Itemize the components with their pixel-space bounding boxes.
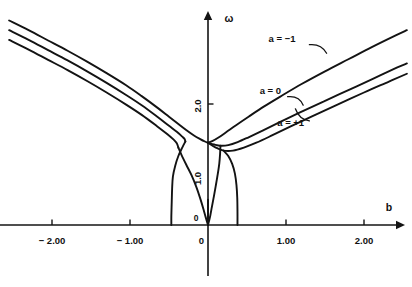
- curve-annotation-label: a = 0: [260, 85, 281, 96]
- lower-branches-group: [171, 142, 237, 225]
- annotation-leader-line: [309, 45, 326, 54]
- chart-figure: − 2.00− 1.0001.002.00 1.02.0 a = −1a = 0…: [0, 0, 412, 287]
- x-axis-tick-labels: − 2.00− 1.0001.002.00: [39, 235, 374, 246]
- curve-annotation-label: a = −1: [269, 33, 297, 44]
- y-axis-title: ω: [225, 12, 234, 24]
- branch-right-outer-descending: [224, 151, 238, 225]
- dispersion-diagram: − 2.00− 1.0001.002.00 1.02.0 a = −1a = 0…: [0, 0, 412, 287]
- x-tick-label: − 1.00: [117, 235, 144, 246]
- x-tick-label: 1.00: [277, 235, 296, 246]
- y-axis-arrowhead: [204, 11, 212, 20]
- branch-right-inner-descending: [208, 146, 220, 225]
- x-tick-label: − 2.00: [39, 235, 66, 246]
- annotation-leader-line: [288, 97, 304, 106]
- curve-a-1-right: [208, 74, 407, 151]
- x-tick-label: 2.00: [355, 235, 374, 246]
- x-tick-label: 0: [199, 235, 204, 246]
- curve-a-1-left: [9, 40, 178, 148]
- y-tick-label: 1.0: [192, 172, 203, 185]
- x-axis-title: b: [386, 201, 392, 213]
- branch-left-outer-descending: [171, 142, 185, 225]
- origin-tick-label: 0: [194, 213, 199, 223]
- y-axis-tick-labels: 1.02.0: [192, 99, 203, 185]
- curve-a-0-right: [208, 63, 407, 145]
- y-tick-label: 2.0: [192, 99, 203, 112]
- curve-a-1-left: [9, 21, 208, 143]
- curve-annotation-label: a = +1: [277, 117, 305, 128]
- x-axis-arrowhead: [396, 221, 405, 229]
